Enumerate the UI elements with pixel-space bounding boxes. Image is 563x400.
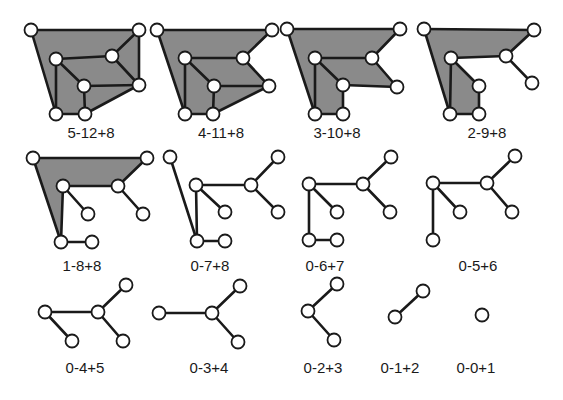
graph-vertex <box>481 177 494 190</box>
graph-vertex <box>153 307 166 320</box>
graph-label: 1-8+8 <box>63 257 102 274</box>
graph-edge <box>170 157 197 241</box>
graph-vertex <box>206 307 219 320</box>
graph-vertex <box>219 206 232 219</box>
graph-vertex <box>66 335 79 348</box>
graph-0-1+2: 0-1+2 <box>381 285 430 377</box>
graph-vertex <box>141 152 154 165</box>
graph-vertex <box>112 180 125 193</box>
graph-0-4+5: 0-4+5 <box>39 279 133 377</box>
graph-label: 5-12+8 <box>67 124 114 141</box>
graph-vertex <box>245 179 258 192</box>
graph-vertex <box>302 305 315 318</box>
graph-vertex <box>473 80 486 93</box>
graph-vertex <box>263 80 276 93</box>
graph-vertex <box>191 235 204 248</box>
graph-0-7+8: 0-7+8 <box>164 151 285 275</box>
graph-vertex <box>232 336 245 349</box>
graph-vertex <box>385 151 398 164</box>
graph-vertex <box>207 108 220 121</box>
graph-5-12+8: 5-12+8 <box>25 24 146 142</box>
graph-label: 2-9+8 <box>468 124 507 141</box>
graph-vertex <box>272 206 285 219</box>
graph-vertex <box>25 24 38 37</box>
graph-1-8+8: 1-8+8 <box>27 152 154 275</box>
graph-vertex <box>454 206 467 219</box>
graph-vertex <box>506 206 519 219</box>
graph-vertex <box>476 309 489 322</box>
graph-label: 0-7+8 <box>191 257 230 274</box>
graph-vertex <box>309 52 322 65</box>
graph-vertex <box>57 180 70 193</box>
graph-vertex <box>50 108 63 121</box>
graph-vertex <box>120 279 133 292</box>
graph-vertex <box>55 236 68 249</box>
graph-vertex <box>219 235 232 248</box>
graph-vertex <box>303 234 316 247</box>
graph-sequence-canvas: 5-12+84-11+83-10+82-9+81-8+80-7+80-6+70-… <box>0 0 563 400</box>
graph-0-0+1: 0-0+1 <box>457 309 496 377</box>
graph-edge <box>424 29 534 30</box>
graph-vertex <box>164 151 177 164</box>
graph-vertex <box>208 80 221 93</box>
graph-vertex <box>27 152 40 165</box>
graph-0-2+3: 0-2+3 <box>302 278 344 377</box>
graph-vertex <box>190 179 203 192</box>
graph-vertex <box>272 151 285 164</box>
graph-0-3+4: 0-3+4 <box>153 280 247 377</box>
graph-0-6+7: 0-6+7 <box>303 151 398 275</box>
graph-vertex <box>237 52 250 65</box>
graph-label: 0-1+2 <box>381 359 420 376</box>
graph-label: 4-11+8 <box>198 124 244 141</box>
graph-vertex <box>331 206 344 219</box>
graph-vertex <box>331 278 344 291</box>
graph-vertex <box>337 79 350 92</box>
graph-edge <box>450 58 451 114</box>
graph-label: 0-6+7 <box>306 257 345 274</box>
graph-vertex <box>309 108 322 121</box>
graph-vertex <box>133 24 146 37</box>
graph-vertex <box>151 24 164 37</box>
graph-vertex <box>384 206 397 219</box>
graph-vertex <box>328 334 341 347</box>
graph-vertex <box>391 81 404 94</box>
graph-vertex <box>281 23 294 36</box>
graph-4-11+8: 4-11+8 <box>151 24 279 142</box>
graph-vertex <box>266 24 279 37</box>
graph-vertex <box>509 150 522 163</box>
graph-vertex <box>389 311 402 324</box>
graph-vertex <box>427 177 440 190</box>
graph-vertex <box>86 236 99 249</box>
graph-label: 0-3+4 <box>190 359 229 376</box>
graph-edge <box>84 85 139 86</box>
graph-vertex <box>427 234 440 247</box>
graph-label: 0-2+3 <box>304 359 343 376</box>
graph-vertex <box>394 23 407 36</box>
graph-vertex <box>444 108 457 121</box>
graph-vertex <box>418 23 431 36</box>
graph-label: 0-5+6 <box>459 257 498 274</box>
graph-vertex <box>528 24 541 37</box>
graph-vertex <box>133 79 146 92</box>
graph-vertex <box>526 77 539 90</box>
graph-2-9+8: 2-9+8 <box>418 23 541 142</box>
euler-reduction-diagram: 5-12+84-11+83-10+82-9+81-8+80-7+80-6+70-… <box>0 0 563 400</box>
graph-vertex <box>39 306 52 319</box>
graph-vertex <box>82 208 95 221</box>
graph-vertex <box>106 50 119 63</box>
graph-vertex <box>357 178 370 191</box>
graph-label: 0-4+5 <box>66 359 105 376</box>
graph-vertex <box>366 52 379 65</box>
graph-vertex <box>337 108 350 121</box>
graph-vertex <box>179 108 192 121</box>
graph-vertex <box>137 208 150 221</box>
graph-vertex <box>417 285 430 298</box>
graph-vertex <box>234 280 247 293</box>
graph-vertex <box>50 53 63 66</box>
graph-0-5+6: 0-5+6 <box>427 150 522 275</box>
graph-vertex <box>500 50 513 63</box>
graph-vertex <box>331 234 344 247</box>
graph-vertex <box>78 80 91 93</box>
graph-vertex <box>303 178 316 191</box>
graph-vertex <box>79 108 92 121</box>
